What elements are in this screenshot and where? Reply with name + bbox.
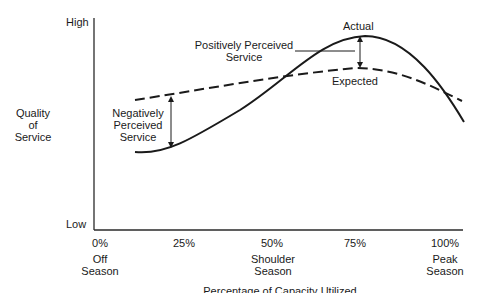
y-high-label: High [66, 16, 89, 28]
x-tick-50: 50% [260, 237, 284, 249]
shoulder-season-line: Season [246, 265, 300, 277]
positive-annotation: Positively Perceived Service [186, 39, 302, 63]
off-season-line: Season [78, 265, 122, 277]
peak-season-label: Peak Season [422, 253, 468, 277]
x-tick-75: 75% [343, 237, 367, 249]
arrow-head-up-icon [168, 96, 174, 102]
peak-season-line: Season [422, 265, 468, 277]
off-season-label: Off Season [78, 253, 122, 277]
x-tick-100: 100% [430, 237, 460, 249]
x-axis-title: Percentage of Capacity Utilized [180, 285, 380, 293]
negative-annotation-line: Perceived [108, 119, 168, 131]
shoulder-season-label: Shoulder Season [246, 253, 300, 277]
positive-annotation-line: Service [186, 51, 302, 63]
off-season-line: Off [78, 253, 122, 265]
y-title-line: Service [10, 131, 56, 143]
x-tick-25: 25% [172, 237, 196, 249]
negative-annotation-line: Negatively [108, 107, 168, 119]
negative-annotation: Negatively Perceived Service [108, 107, 168, 143]
y-axis-title: Quality of Service [10, 107, 56, 143]
expected-label: Expected [332, 75, 378, 87]
y-low-label: Low [66, 218, 86, 230]
positive-annotation-line: Positively Perceived [186, 39, 302, 51]
negative-annotation-line: Service [108, 131, 168, 143]
shoulder-season-line: Shoulder [246, 253, 300, 265]
actual-label: Actual [343, 20, 374, 32]
x-tick-0: 0% [90, 237, 110, 249]
y-title-line: of [10, 119, 56, 131]
y-title-line: Quality [10, 107, 56, 119]
peak-season-line: Peak [422, 253, 468, 265]
expected-curve [135, 68, 462, 101]
